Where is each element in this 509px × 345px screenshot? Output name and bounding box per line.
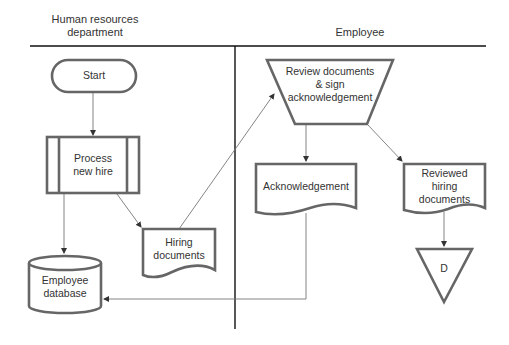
edge-review-to-reviewed-docs xyxy=(368,125,402,161)
review-documents-label: Review documents & sign acknowledgement xyxy=(272,65,388,104)
acknowledgement-label: Acknowledgement xyxy=(256,180,356,193)
start-label: Start xyxy=(52,69,136,82)
hiring-documents-label: Hiring documents xyxy=(143,236,215,262)
offline-storage-triangle xyxy=(417,249,472,302)
connectors xyxy=(64,92,444,299)
lane-title-hr: Human resources department xyxy=(30,13,160,39)
lane-title-employee: Employee xyxy=(305,26,415,39)
offline-storage-d-label: D xyxy=(430,262,458,275)
reviewed-hiring-documents-label: Reviewed hiring documents xyxy=(404,167,485,206)
edge-process-to-hiring-docs xyxy=(117,194,141,227)
employee-database-label: Employee database xyxy=(29,274,101,300)
process-new-hire-label: Process new hire xyxy=(59,152,127,178)
